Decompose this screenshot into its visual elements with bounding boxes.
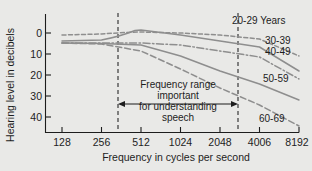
speech-range-annotation: Frequency range important for understand…	[118, 79, 238, 123]
x-tick-label-4006: 4006	[248, 136, 272, 148]
x-axis: 128 256 512 1024 2048 4006 8192 Frequenc…	[46, 127, 309, 163]
x-axis-tick-labels: 128 256 512 1024 2048 4006 8192	[53, 136, 309, 148]
arrow-head-left	[118, 101, 125, 107]
x-tick-label-256: 256	[93, 136, 111, 148]
y-tick-label-40: 40	[30, 111, 42, 123]
x-tick-label-512: 512	[132, 136, 150, 148]
series-line-30-39	[62, 30, 299, 71]
audiogram-chart: 0 10 20 30 40 Hearing level in decibels …	[0, 0, 312, 171]
annotation-line-1: Frequency range	[140, 79, 216, 90]
series-label-20-29: 20-29 Years	[232, 15, 285, 26]
y-axis-ticks	[46, 33, 52, 117]
y-tick-label-30: 30	[30, 90, 42, 102]
x-axis-title: Frequency in cycles per second	[102, 151, 250, 163]
series-label-50-59: 50-59	[263, 73, 289, 84]
y-tick-label-0: 0	[36, 27, 42, 39]
x-axis-ticks	[62, 127, 299, 133]
annotation-line-4: speech	[162, 112, 194, 123]
x-tick-label-2048: 2048	[208, 136, 232, 148]
annotation-line-3: for understanding	[139, 101, 217, 112]
series-label-40-49: 40-49	[265, 46, 291, 57]
series-label-30-39: 30-39	[265, 35, 291, 46]
annotation-line-2: important	[157, 90, 199, 101]
x-tick-label-128: 128	[53, 136, 71, 148]
y-tick-label-20: 20	[30, 69, 42, 81]
y-axis: 0 10 20 30 40 Hearing level in decibels	[4, 14, 51, 142]
series-label-60-69: 60-69	[259, 113, 285, 124]
x-tick-label-8192: 8192	[285, 136, 309, 148]
x-tick-label-1024: 1024	[169, 136, 193, 148]
chart-canvas: 0 10 20 30 40 Hearing level in decibels …	[0, 0, 312, 171]
y-tick-label-10: 10	[30, 48, 42, 60]
y-axis-tick-labels: 0 10 20 30 40	[30, 27, 42, 123]
arrow-head-right	[231, 101, 238, 107]
series-labels: 20-29 Years 30-39 40-49 50-59 60-69	[232, 15, 291, 124]
y-axis-title: Hearing level in decibels	[4, 28, 16, 142]
